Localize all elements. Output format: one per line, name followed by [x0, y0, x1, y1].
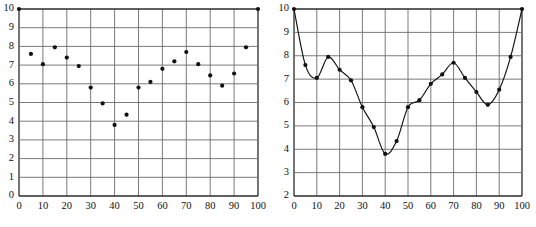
y-tick-label: 4	[9, 115, 15, 126]
data-point	[326, 55, 330, 59]
data-point	[29, 52, 33, 56]
data-point	[113, 123, 117, 127]
chart-panel-left: 0123456789100102030405060708090100	[0, 0, 268, 227]
grid-lines	[294, 9, 522, 196]
data-point	[292, 7, 296, 11]
y-tick-label: 2	[9, 152, 14, 163]
data-point	[303, 63, 307, 67]
x-tick-label: 60	[426, 200, 437, 211]
scatter-plot-svg: 0123456789100102030405060708090100	[0, 0, 268, 227]
data-point	[136, 85, 140, 89]
data-point	[77, 64, 81, 68]
y-tick-label: 7	[284, 73, 289, 84]
x-tick-label: 30	[357, 200, 368, 211]
y-tick-label: 10	[4, 2, 15, 13]
y-tick-label: 8	[284, 49, 289, 60]
data-point	[208, 73, 212, 77]
data-point	[17, 7, 21, 11]
y-tick-label: 9	[284, 26, 289, 37]
data-point	[440, 72, 444, 76]
y-tick-label: 1	[9, 171, 14, 182]
data-point	[148, 80, 152, 84]
data-point	[417, 98, 421, 102]
data-point	[509, 55, 513, 59]
x-tick-label: 70	[448, 200, 459, 211]
data-point	[184, 50, 188, 54]
y-tick-label: 5	[284, 119, 289, 130]
x-tick-label: 20	[62, 200, 73, 211]
data-point	[124, 113, 128, 117]
data-point	[486, 103, 490, 107]
x-tick-label: 10	[312, 200, 323, 211]
data-point	[220, 84, 224, 88]
data-point	[315, 76, 319, 80]
chart-panel-right: 23456789100102030405060708090100	[268, 0, 536, 227]
y-tick-label: 6	[9, 77, 14, 88]
data-point	[383, 152, 387, 156]
y-tick-label: 2	[284, 189, 289, 200]
data-point	[360, 105, 364, 109]
x-tick-label: 50	[133, 200, 144, 211]
data-point	[395, 139, 399, 143]
y-tick-label: 9	[9, 21, 14, 32]
x-tick-label: 40	[109, 200, 120, 211]
data-point	[101, 101, 105, 105]
data-point	[474, 90, 478, 94]
x-tick-label: 50	[403, 200, 414, 211]
data-point	[65, 56, 69, 60]
y-tick-label: 6	[284, 96, 289, 107]
y-axis-tick-labels: 2345678910	[279, 2, 290, 200]
data-point	[196, 62, 200, 66]
x-tick-label: 90	[229, 200, 240, 211]
y-tick-label: 4	[284, 143, 290, 154]
data-point	[172, 59, 176, 63]
y-tick-label: 3	[9, 133, 14, 144]
data-point	[160, 67, 164, 71]
data-point	[244, 45, 248, 49]
x-tick-label: 100	[514, 200, 530, 211]
data-point	[256, 7, 260, 11]
x-tick-label: 0	[291, 200, 296, 211]
data-point	[89, 85, 93, 89]
data-point	[452, 61, 456, 65]
grid-lines	[19, 9, 258, 196]
x-tick-label: 20	[334, 200, 345, 211]
y-tick-label: 10	[279, 2, 290, 13]
data-point	[338, 68, 342, 72]
x-tick-label: 10	[38, 200, 49, 211]
figure-container: 0123456789100102030405060708090100 23456…	[0, 0, 536, 227]
y-tick-label: 5	[9, 96, 14, 107]
y-tick-label: 3	[284, 166, 289, 177]
x-tick-label: 0	[16, 200, 21, 211]
x-tick-label: 80	[205, 200, 216, 211]
data-point	[406, 105, 410, 109]
y-tick-label: 8	[9, 40, 14, 51]
y-tick-label: 0	[9, 189, 14, 200]
x-tick-label: 70	[181, 200, 192, 211]
data-point	[429, 82, 433, 86]
x-tick-label: 30	[85, 200, 96, 211]
line-plot-svg: 23456789100102030405060708090100	[268, 0, 536, 227]
y-tick-label: 7	[9, 59, 14, 70]
y-axis-tick-labels: 012345678910	[4, 2, 15, 200]
data-point	[349, 78, 353, 82]
x-axis-tick-labels: 0102030405060708090100	[16, 200, 266, 211]
data-point	[41, 62, 45, 66]
data-point	[232, 71, 236, 75]
x-tick-label: 80	[471, 200, 482, 211]
data-point	[497, 88, 501, 92]
data-point	[463, 76, 467, 80]
data-point	[372, 125, 376, 129]
x-tick-label: 60	[157, 200, 168, 211]
data-point	[53, 45, 57, 49]
data-point	[520, 7, 524, 11]
x-axis-tick-labels: 0102030405060708090100	[291, 200, 530, 211]
x-tick-label: 90	[494, 200, 505, 211]
x-tick-label: 40	[380, 200, 391, 211]
x-tick-label: 100	[250, 200, 266, 211]
